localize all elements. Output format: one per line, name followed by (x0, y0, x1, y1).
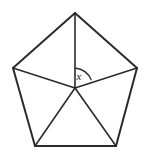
pentagon-svg-canvas: x (0, 0, 149, 156)
pentagon-diagram: x (0, 0, 149, 156)
angle-label-x: x (76, 70, 82, 82)
